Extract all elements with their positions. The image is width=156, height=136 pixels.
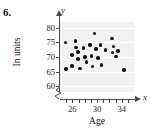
y-axis-tick — [56, 42, 60, 43]
data-point — [96, 56, 100, 60]
data-point — [94, 47, 98, 51]
gridline — [60, 72, 134, 73]
y-axis-tick-label: 60 — [47, 81, 56, 91]
y-axis-tick-label: 75 — [47, 37, 56, 47]
data-point — [114, 55, 118, 59]
gridline — [60, 28, 134, 29]
y-axis-tick — [56, 86, 60, 87]
y-axis-line — [59, 14, 60, 92]
y-axis-tick — [56, 57, 60, 58]
data-point — [83, 55, 87, 59]
gridline — [60, 42, 134, 43]
gridline — [60, 86, 134, 87]
problem-number: 6. — [3, 6, 11, 18]
x-axis-tick — [109, 99, 110, 103]
x-axis-tick — [91, 99, 92, 103]
figure-container: 6. y x 6065707580 263034 In units Age — [0, 0, 156, 136]
x-axis-tick — [85, 99, 86, 103]
y-axis-tick-label: 70 — [47, 52, 56, 62]
x-axis-tick — [116, 99, 117, 103]
y-axis-tick — [56, 72, 60, 73]
x-axis-tick-label: 34 — [117, 104, 126, 114]
x-axis-tick-label: 30 — [93, 104, 102, 114]
x-axis-tick — [122, 99, 123, 103]
x-axis-tick — [66, 99, 67, 103]
data-point — [76, 50, 80, 54]
data-point — [88, 43, 92, 47]
data-point — [70, 53, 74, 57]
data-point — [90, 54, 94, 58]
data-point — [122, 68, 126, 72]
x-axis-tick — [72, 99, 73, 103]
y-axis-tick-label: 80 — [47, 23, 56, 33]
data-point — [78, 67, 82, 71]
y-axis-title: In units — [12, 22, 22, 82]
x-axis-title: Age — [60, 116, 134, 126]
x-axis-tick — [97, 99, 98, 103]
data-point — [70, 64, 74, 68]
y-axis-tick-label: 65 — [47, 67, 56, 77]
x-axis-arrow-icon — [135, 96, 141, 102]
y-axis-tick — [56, 28, 60, 29]
x-axis-tick-label: 26 — [68, 104, 77, 114]
data-point — [110, 37, 114, 41]
data-point — [82, 46, 86, 50]
x-axis-tick — [103, 99, 104, 103]
data-point — [64, 67, 68, 71]
x-axis-letter: x — [143, 92, 147, 102]
data-point — [76, 57, 80, 61]
data-point — [100, 63, 104, 67]
data-point — [116, 49, 120, 53]
x-axis-tick — [128, 99, 129, 103]
y-axis-letter: y — [61, 5, 65, 15]
x-axis-tick — [79, 99, 80, 103]
